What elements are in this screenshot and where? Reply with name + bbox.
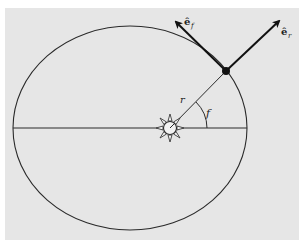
- svg-text:ê: ê: [281, 26, 287, 37]
- svg-text:f: f: [190, 22, 195, 30]
- svg-text:ê: ê: [184, 16, 190, 27]
- unit-vector-r-arrow: [226, 21, 279, 71]
- svg-text:r: r: [288, 32, 292, 40]
- unit-vector-r-label: ê r: [281, 26, 292, 40]
- unit-vector-f-label: ê f: [184, 16, 195, 30]
- planet-dot: [222, 67, 230, 75]
- unit-vector-f-arrow: [176, 22, 226, 71]
- true-anomaly-label: f: [205, 107, 212, 120]
- sun-icon: [156, 114, 184, 142]
- radius-label: r: [180, 94, 186, 105]
- orbit-diagram: r f ê f ê r: [0, 0, 305, 247]
